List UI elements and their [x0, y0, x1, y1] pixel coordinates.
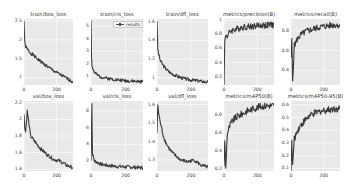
- y-tick-label: 2: [8, 37, 22, 42]
- x-tick-label: 200: [119, 87, 133, 92]
- plot-area: [291, 19, 340, 85]
- y-tick-label: 0.2: [208, 166, 222, 171]
- y-tick-label: 0.5: [275, 115, 289, 120]
- x-tick-label: 200: [50, 87, 64, 92]
- y-tick-label: 1: [75, 73, 89, 78]
- y-tick-label: 3: [75, 48, 89, 53]
- plot-area: [224, 19, 274, 85]
- plot-area: [224, 101, 274, 171]
- legend: results: [113, 21, 143, 28]
- y-tick-label: 1: [141, 75, 155, 80]
- x-tick-label: 200: [250, 173, 264, 178]
- subplot-title: val/cls_loss: [81, 93, 153, 99]
- y-tick-label: 0.8: [208, 112, 222, 117]
- y-tick-label: 1.8: [8, 133, 22, 138]
- y-tick-label: 4: [75, 36, 89, 41]
- legend-label: results: [126, 22, 140, 27]
- y-tick-label: 0.6: [208, 130, 222, 135]
- x-tick-label: 0: [17, 173, 31, 178]
- y-tick-label: 0.8: [275, 28, 289, 33]
- y-tick-label: 2: [8, 116, 22, 121]
- y-tick-label: 0.1: [275, 165, 289, 170]
- x-tick-label: 0: [84, 87, 98, 92]
- plot-area: [24, 19, 73, 85]
- subplot-title: metrics/mAP50-95(B): [281, 93, 350, 99]
- y-tick-label: 0.6: [275, 48, 289, 53]
- x-tick-label: 0: [150, 87, 164, 92]
- x-tick-label: 200: [250, 87, 264, 92]
- y-tick-label: 1: [208, 17, 222, 22]
- y-tick-label: 1: [8, 74, 22, 79]
- y-tick-label: 2: [75, 61, 89, 66]
- subplot-title: metrics/precision(B): [214, 11, 284, 17]
- plot-area: [157, 19, 208, 85]
- x-tick-label: 200: [184, 173, 198, 178]
- plot-area: [157, 101, 208, 171]
- y-tick-label: 1.6: [141, 19, 155, 24]
- x-tick-label: 0: [217, 173, 231, 178]
- y-tick-label: 0.2: [275, 153, 289, 158]
- plot-area: [91, 101, 143, 171]
- subplot-title: val/box_loss: [14, 93, 83, 99]
- y-tick-label: 0.3: [275, 140, 289, 145]
- y-tick-label: 6: [75, 125, 89, 130]
- y-tick-label: 1.4: [141, 139, 155, 144]
- x-tick-label: 0: [150, 173, 164, 178]
- subplot-title: val/dfl_loss: [147, 93, 218, 99]
- x-tick-label: 0: [84, 173, 98, 178]
- y-tick-label: 0.4: [275, 127, 289, 132]
- y-tick-label: 8: [75, 108, 89, 113]
- x-tick-label: 0: [284, 87, 298, 92]
- y-tick-label: 0.4: [208, 60, 222, 65]
- y-tick-label: 0.4: [275, 67, 289, 72]
- y-tick-label: 0.6: [208, 45, 222, 50]
- plot-area: [291, 101, 340, 171]
- x-tick-label: 200: [119, 173, 133, 178]
- x-tick-label: 200: [50, 173, 64, 178]
- x-tick-label: 0: [17, 87, 31, 92]
- x-tick-label: 200: [317, 173, 331, 178]
- y-tick-label: 0.6: [275, 102, 289, 107]
- subplot-title: train/dfl_loss: [147, 11, 218, 17]
- subplot-title: train/box_loss: [14, 11, 83, 17]
- y-tick-label: 4: [75, 141, 89, 146]
- x-tick-label: 0: [284, 173, 298, 178]
- plot-area: [24, 101, 73, 171]
- y-tick-label: 2.2: [8, 100, 22, 105]
- y-tick-label: 0.2: [208, 74, 222, 79]
- x-tick-label: 200: [184, 87, 198, 92]
- subplot-title: train/cls_loss: [81, 11, 153, 17]
- y-tick-label: 5: [75, 23, 89, 28]
- legend-line-icon: [116, 24, 124, 25]
- subplot-title: metrics/recall(B): [281, 11, 350, 17]
- y-tick-label: 0.8: [208, 31, 222, 36]
- y-tick-label: 1.2: [141, 56, 155, 61]
- y-tick-label: 1.5: [141, 120, 155, 125]
- x-tick-label: 200: [317, 87, 331, 92]
- y-tick-label: 1.4: [8, 166, 22, 171]
- y-tick-label: 1.5: [8, 56, 22, 61]
- y-tick-label: 1.4: [141, 37, 155, 42]
- y-tick-label: 2: [75, 158, 89, 163]
- y-tick-label: 1.3: [141, 157, 155, 162]
- plot-area: [91, 19, 143, 85]
- y-tick-label: 1.6: [141, 102, 155, 107]
- y-tick-label: 1.6: [8, 150, 22, 155]
- x-tick-label: 0: [217, 87, 231, 92]
- y-tick-label: 0.4: [208, 148, 222, 153]
- y-tick-label: 2.5: [8, 18, 22, 23]
- subplot-title: metrics/mAP50(B): [214, 93, 284, 99]
